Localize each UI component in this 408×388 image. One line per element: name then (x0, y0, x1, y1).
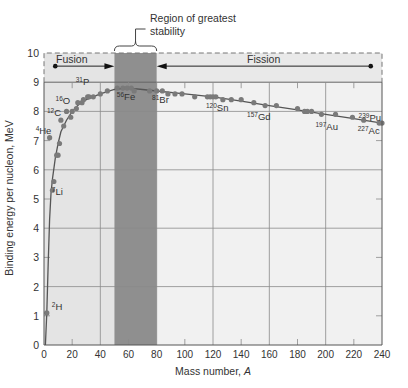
x-axis-title: Mass number, A (175, 365, 251, 377)
data-point (179, 91, 184, 96)
data-point (333, 112, 338, 117)
region-label-line2: stability (150, 25, 186, 37)
y-tick-label: 7 (33, 135, 39, 147)
y-tick-label: 6 (33, 164, 39, 176)
fission-label: Fission (247, 53, 280, 65)
data-point (70, 109, 75, 114)
y-axis-title: Binding energy per nucleon, MeV (3, 120, 15, 275)
data-point (64, 109, 69, 114)
y-tick-label: 0 (33, 339, 39, 351)
data-point (91, 94, 96, 99)
data-point (172, 91, 177, 96)
data-point (263, 103, 268, 108)
data-point (61, 123, 66, 128)
region-label-line1: Region of greatest (150, 12, 236, 24)
data-point (229, 97, 234, 102)
x-tick-label: 0 (41, 349, 47, 360)
x-tick-label: 60 (123, 349, 135, 360)
data-point (105, 88, 110, 93)
data-point (115, 85, 120, 90)
data-point (147, 88, 152, 93)
data-point (319, 112, 324, 117)
x-tick-label: 100 (176, 349, 193, 360)
data-point (274, 103, 279, 108)
data-point (44, 310, 49, 315)
y-tick-label: 9 (33, 76, 39, 88)
y-tick-label: 2 (33, 281, 39, 293)
data-point (192, 94, 197, 99)
data-point (295, 106, 300, 111)
x-axis-variable: A (243, 365, 251, 377)
data-point (239, 97, 244, 102)
y-tick-label: 8 (33, 105, 39, 117)
x-tick-label: 40 (95, 349, 107, 360)
y-tick-label: 3 (33, 251, 39, 263)
data-point (47, 135, 52, 140)
region-brace (114, 41, 156, 51)
x-tick-label: 240 (374, 349, 391, 360)
data-point (251, 100, 256, 105)
y-tick-label: 5 (33, 193, 39, 205)
y-tick-label: 10 (27, 47, 39, 59)
x-tick-label: 20 (67, 349, 79, 360)
data-point (81, 97, 86, 102)
x-axis-title-text: Mass number, (175, 365, 244, 377)
data-point (57, 141, 62, 146)
data-point (58, 118, 63, 123)
data-point (55, 153, 60, 158)
binding-energy-chart: 2H4He7Li12C16O31P56Fe81Br120Sn157Gd197Au… (0, 0, 408, 388)
data-point (98, 91, 103, 96)
data-point (350, 115, 355, 120)
data-point (51, 179, 56, 184)
chart-canvas: 2H4He7Li12C16O31P56Fe81Br120Sn157Gd197Au… (0, 0, 408, 388)
y-tick-label: 4 (33, 222, 39, 234)
data-point (68, 115, 73, 120)
y-tick-label: 1 (33, 310, 39, 322)
x-tick-label: 220 (345, 349, 362, 360)
x-tick-label: 140 (233, 349, 250, 360)
x-tick-label: 160 (261, 349, 278, 360)
x-tick-label: 80 (151, 349, 163, 360)
x-tick-label: 200 (317, 349, 334, 360)
data-point (74, 106, 79, 111)
fusion-label: Fusion (56, 53, 88, 65)
data-point (160, 88, 165, 93)
x-tick-label: 180 (289, 349, 306, 360)
data-point (154, 88, 159, 93)
region-leader-line (136, 29, 146, 41)
x-tick-label: 120 (205, 349, 222, 360)
data-point (213, 94, 218, 99)
data-point (309, 109, 314, 114)
